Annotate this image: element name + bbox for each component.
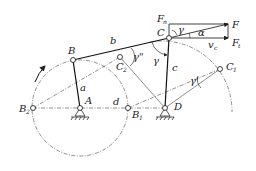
label-gamma: γ: [153, 55, 159, 66]
link-a: [73, 60, 80, 108]
label-C1-sub: 1: [233, 66, 237, 73]
label-link-a: a: [80, 82, 86, 93]
label-B: B: [67, 45, 75, 56]
joint-B: [71, 58, 76, 63]
label-D: D: [173, 101, 182, 112]
label-F: F: [231, 19, 240, 30]
label-Fn-sub: n: [163, 18, 167, 25]
label-gamma-dd: γ": [133, 51, 144, 62]
joint-C: [167, 36, 172, 41]
label-alpha: α: [198, 27, 205, 38]
label-link-d: d: [113, 96, 119, 107]
joint-A: [78, 106, 83, 111]
label-B2-sub: 2: [25, 108, 30, 115]
gamma-arc: [152, 42, 167, 55]
label-C: C: [157, 27, 165, 38]
joint-C2: [118, 55, 123, 60]
label-C2-sub: 2: [122, 66, 127, 73]
link-c: [165, 38, 169, 108]
joint-B1: [126, 106, 131, 111]
label-link-b: b: [110, 35, 116, 46]
label-Ft-sub: t: [238, 42, 241, 49]
gamma-arc-top: [172, 30, 177, 35]
label-A: A: [84, 95, 92, 106]
rotation-arrow: [35, 66, 45, 82]
joint-B2: [31, 106, 36, 111]
label-link-c: c: [172, 62, 178, 73]
linkage-diagram: B A B 2 B 1 D C C 1 C 2 a b c d F F n F …: [0, 0, 256, 171]
joint-D: [163, 106, 168, 111]
label-gamma-d: γ': [190, 75, 199, 86]
label-vc-sub: c: [214, 44, 218, 51]
alpha-arc: [189, 33, 190, 38]
joint-C1: [218, 67, 223, 72]
label-B1-sub: 1: [139, 114, 143, 121]
label-gamma-top: γ: [178, 24, 184, 35]
